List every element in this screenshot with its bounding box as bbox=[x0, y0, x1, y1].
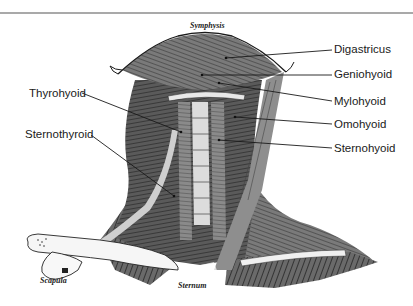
label-scapula: Scapula bbox=[40, 277, 67, 285]
label-sternum: Sternum bbox=[178, 282, 206, 290]
label-symphysis: Symphysis bbox=[190, 22, 225, 30]
label-geniohyoid: Geniohyoid bbox=[334, 69, 392, 81]
scapula-mark bbox=[62, 268, 68, 273]
label-omohyoid: Omohyoid bbox=[334, 119, 386, 131]
label-sternothyroid: Sternothyroid bbox=[25, 129, 93, 141]
sternohyoid-strip-left bbox=[178, 102, 192, 240]
label-digastricus: Digastricus bbox=[334, 44, 391, 56]
mandible-right-tip bbox=[286, 62, 294, 72]
label-thyrohyoid: Thyrohyoid bbox=[29, 88, 86, 100]
trachea bbox=[192, 102, 210, 225]
label-sternohyoid: Sternohyoid bbox=[334, 143, 395, 155]
sternohyoid-strip-right bbox=[211, 102, 226, 240]
label-mylohyoid: Mylohyoid bbox=[334, 96, 386, 108]
